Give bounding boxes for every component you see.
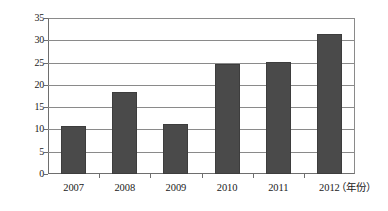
bar-2010 — [215, 64, 240, 174]
x-tick-mark-3 — [202, 174, 203, 178]
x-tick-label-2007: 2007 — [49, 183, 99, 194]
bar-2007 — [61, 126, 86, 174]
bar-chart: 05101520253035 200720082009201020112012 … — [0, 0, 388, 211]
y-tick-label-35: 35 — [16, 13, 44, 23]
y-tick-label-25: 25 — [16, 58, 44, 68]
y-tick-label-5: 5 — [16, 147, 44, 157]
y-tick-label-30: 30 — [16, 35, 44, 45]
x-tick-label-2009: 2009 — [151, 183, 201, 194]
x-tick-label-2010: 2010 — [202, 183, 252, 194]
x-tick-label-2011: 2011 — [253, 183, 303, 194]
x-tick-mark-2 — [150, 174, 151, 178]
y-tick-mark-0 — [44, 174, 48, 175]
x-tick-mark-1 — [99, 174, 100, 178]
bar-2009 — [163, 124, 188, 174]
y-tick-label-0: 0 — [16, 169, 44, 179]
x-axis-title: （年份） — [336, 182, 376, 194]
y-tick-label-15: 15 — [16, 102, 44, 112]
y-tick-label-10: 10 — [16, 124, 44, 134]
bar-2011 — [266, 62, 291, 174]
bars-layer — [48, 18, 355, 174]
x-tick-label-2008: 2008 — [100, 183, 150, 194]
bar-2012 — [317, 34, 342, 174]
x-tick-mark-4 — [253, 174, 254, 178]
x-tick-mark-5 — [304, 174, 305, 178]
y-tick-label-20: 20 — [16, 80, 44, 90]
bar-2008 — [112, 92, 137, 174]
